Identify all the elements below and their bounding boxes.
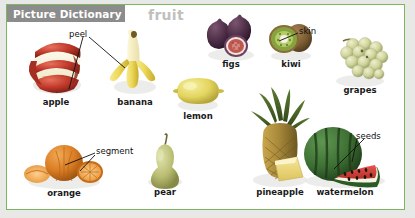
figure-lemon	[170, 69, 226, 113]
caption-pear: pear	[141, 187, 189, 197]
caption-banana: banana	[105, 97, 165, 107]
figure-orange	[23, 141, 105, 189]
figure-figs	[203, 13, 259, 61]
caption-grapes: grapes	[329, 85, 391, 95]
caption-kiwi: kiwi	[265, 59, 317, 69]
figure-grapes	[329, 31, 391, 87]
figure-banana	[105, 29, 165, 95]
annotation-seeds: seeds	[356, 131, 381, 141]
annotation-peel: peel	[69, 29, 87, 39]
picture-dictionary-badge: Picture Dictionary	[7, 5, 125, 22]
caption-watermelon: watermelon	[299, 187, 391, 197]
badge-label: Picture Dictionary	[7, 8, 122, 20]
caption-figs: figs	[203, 59, 259, 69]
caption-orange: orange	[23, 188, 105, 198]
figure-apple	[25, 31, 87, 95]
annotation-skin: skin	[299, 26, 316, 36]
figure-pear	[141, 131, 189, 189]
caption-lemon: lemon	[170, 111, 226, 121]
page-title: fruit	[148, 7, 184, 23]
picture-dictionary-page: Picture Dictionary fruit apple	[6, 4, 405, 210]
annotation-segment: segment	[96, 146, 133, 156]
caption-apple: apple	[25, 97, 87, 107]
